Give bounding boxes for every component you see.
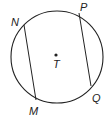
chord-nm	[24, 25, 36, 100]
label-t: T	[53, 58, 61, 70]
center-point	[54, 53, 57, 56]
circle	[11, 11, 103, 103]
label-m: M	[29, 105, 39, 117]
label-n: N	[11, 16, 19, 28]
circle-diagram: N M P Q T	[0, 0, 109, 119]
label-p: P	[80, 1, 88, 13]
label-q: Q	[92, 92, 101, 104]
